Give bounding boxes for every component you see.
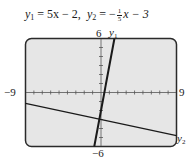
line-y2-label: y2	[177, 133, 185, 148]
xmin-label: −9	[4, 87, 16, 98]
graph-screen	[0, 0, 193, 158]
ymin-label: −6	[92, 148, 104, 158]
xmax-label: 9	[179, 87, 185, 98]
line-y1-label: y1	[109, 27, 117, 42]
ymax-label: 6	[96, 28, 102, 39]
